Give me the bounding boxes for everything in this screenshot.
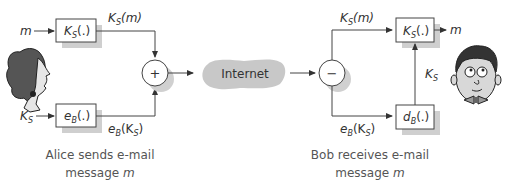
alice-public-key-encrypt-box: eB(.) <box>56 104 102 133</box>
bob-avatar <box>451 46 501 104</box>
alice-caption-line1: Alice sends e-mail <box>45 148 154 162</box>
svg-text:+: + <box>150 66 161 81</box>
bob-key-label: KS <box>425 67 438 83</box>
svg-text:−: − <box>327 66 338 81</box>
combiner-plus: + <box>142 60 174 92</box>
alice-symmetric-encrypt-box: KS(.) <box>56 19 102 48</box>
internet-cloud: Internet <box>202 60 285 90</box>
box-label: dB(.) <box>403 110 429 126</box>
alice-caption-line2: message m <box>65 166 134 180</box>
secure-email-diagram: m KS KS(.) eB(.) KS(m) eB(KS) + Internet… <box>0 0 513 195</box>
alice-output-ks-m: KS(m) <box>108 11 142 27</box>
bob-input-eb-ks: eB(KS) <box>340 122 375 138</box>
alice-output-eb-ks: eB(KS) <box>108 122 143 138</box>
bob-output-m: m <box>450 23 462 37</box>
bob-input-ks-m: KS(m) <box>340 11 374 27</box>
bob-caption-line1: Bob receives e-mail <box>311 148 429 162</box>
alice-avatar <box>7 49 50 112</box>
bob-private-key-decrypt-box: dB(.) <box>396 105 440 135</box>
svg-text:Internet: Internet <box>221 67 269 81</box>
splitter-minus: − <box>319 60 351 92</box>
box-label: eB(.) <box>64 109 90 125</box>
alice-input-m: m <box>20 24 32 38</box>
bob-caption-line2: message m <box>335 166 404 180</box>
box-label: KS(.) <box>64 24 90 40</box>
bob-symmetric-decrypt-box: KS(.) <box>396 18 440 48</box>
box-label: KS(.) <box>403 24 429 40</box>
